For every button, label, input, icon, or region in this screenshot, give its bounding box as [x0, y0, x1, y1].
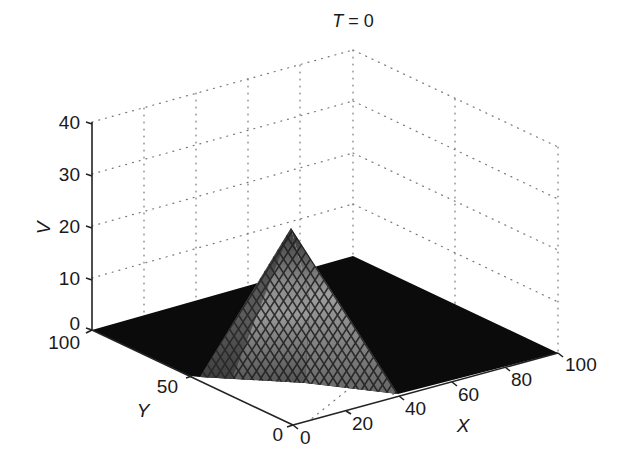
- y-axis-label: Y: [137, 400, 151, 421]
- svg-text:40: 40: [405, 398, 426, 419]
- svg-text:100: 100: [565, 354, 597, 375]
- svg-text:50: 50: [157, 376, 178, 397]
- svg-text:0: 0: [300, 427, 311, 448]
- svg-text:80: 80: [511, 369, 532, 390]
- z-axis-label: V: [33, 219, 54, 234]
- svg-text:0: 0: [69, 313, 80, 334]
- svg-text:60: 60: [458, 384, 479, 405]
- svg-text:20: 20: [59, 216, 80, 237]
- surface-plot: 40 30 20 10 0 V 100 50 0 Y 0 20 40 60 80…: [0, 0, 623, 471]
- svg-text:0: 0: [272, 424, 283, 445]
- svg-text:40: 40: [59, 112, 80, 133]
- svg-text:20: 20: [352, 413, 373, 434]
- svg-text:10: 10: [59, 268, 80, 289]
- z-tick-labels: 40 30 20 10 0: [59, 112, 80, 334]
- svg-text:100: 100: [48, 332, 80, 353]
- surface: [92, 228, 558, 394]
- svg-text:30: 30: [59, 164, 80, 185]
- chart-title: T = 0: [332, 11, 374, 31]
- x-axis-label: X: [456, 415, 471, 436]
